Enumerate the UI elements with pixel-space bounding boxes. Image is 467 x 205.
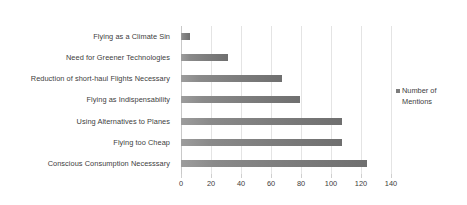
legend: Number of Mentions bbox=[396, 86, 464, 107]
axis-tick bbox=[391, 174, 392, 178]
axis-tick-label: 0 bbox=[179, 179, 183, 188]
axis-tick-label: 140 bbox=[385, 179, 397, 188]
legend-entry: Number of Mentions bbox=[396, 86, 464, 107]
axis-tick bbox=[301, 174, 302, 178]
category-label: Need for Greener Technologies bbox=[0, 47, 176, 68]
category-axis-labels: Flying as a Climate Sin Need for Greener… bbox=[0, 26, 176, 174]
category-label: Reduction of short-haul Flights Necessar… bbox=[0, 68, 176, 89]
value-axis-labels: 020406080100120140 bbox=[181, 179, 391, 193]
bar-slot bbox=[181, 153, 391, 174]
axis-tick bbox=[331, 174, 332, 178]
axis-tick-label: 20 bbox=[207, 179, 215, 188]
bar-slot bbox=[181, 132, 391, 153]
axis-tick bbox=[181, 174, 182, 178]
category-label: Flying as a Climate Sin bbox=[0, 26, 176, 47]
bar bbox=[181, 139, 342, 146]
bar bbox=[181, 54, 228, 61]
axis-tick bbox=[211, 174, 212, 178]
bar-series bbox=[181, 26, 391, 174]
bar bbox=[181, 96, 300, 103]
bar bbox=[181, 118, 342, 125]
category-label: Using Alternatives to Planes bbox=[0, 111, 176, 132]
gridline bbox=[391, 26, 392, 174]
category-label: Flying as Indispensability bbox=[0, 89, 176, 110]
bar-slot bbox=[181, 111, 391, 132]
legend-square-marker-icon bbox=[396, 89, 400, 93]
axis-tick-label: 60 bbox=[267, 179, 275, 188]
bar bbox=[181, 75, 282, 82]
bar bbox=[181, 33, 190, 40]
axis-tick bbox=[271, 174, 272, 178]
axis-tick-label: 120 bbox=[355, 179, 367, 188]
axis-tick-label: 40 bbox=[237, 179, 245, 188]
category-label: Conscious Consumption Necesssary bbox=[0, 153, 176, 174]
bar-slot bbox=[181, 89, 391, 110]
bar bbox=[181, 160, 367, 167]
legend-label: Number of Mentions bbox=[402, 86, 464, 107]
category-label: Flying too Cheap bbox=[0, 132, 176, 153]
bar-slot bbox=[181, 26, 391, 47]
bar-slot bbox=[181, 68, 391, 89]
bar-slot bbox=[181, 47, 391, 68]
axis-tick bbox=[241, 174, 242, 178]
bar-chart: Flying as a Climate Sin Need for Greener… bbox=[0, 0, 467, 205]
axis-tick-label: 100 bbox=[325, 179, 337, 188]
axis-tick-label: 80 bbox=[297, 179, 305, 188]
axis-tick bbox=[361, 174, 362, 178]
plot-area bbox=[181, 26, 391, 174]
